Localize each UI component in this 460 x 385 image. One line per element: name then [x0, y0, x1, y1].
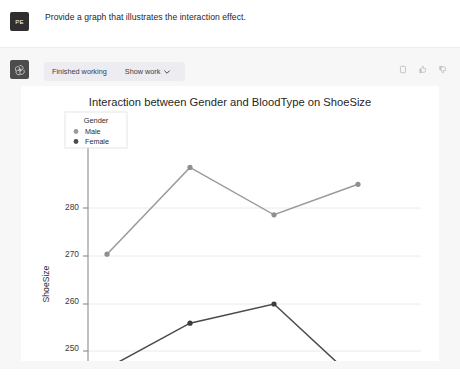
message-actions: [397, 64, 448, 75]
series-female-point-o: [187, 321, 192, 326]
assistant-avatar-wrap: [0, 48, 29, 79]
series-male-point-ab: [355, 182, 360, 187]
assistant-logo-icon: [13, 63, 27, 77]
chevron-down-icon[interactable]: [163, 68, 171, 76]
user-message-row: PE Provide a graph that illustrates the …: [0, 0, 460, 47]
chart-legend: Gender Male Female: [65, 112, 127, 148]
y-axis-label: ShoeSize: [41, 265, 51, 302]
series-male-point-b: [271, 212, 276, 217]
chat-page: PE Provide a graph that illustrates the …: [0, 0, 460, 385]
user-message-text: Provide a graph that illustrates the int…: [45, 12, 246, 24]
legend-marker-male: [74, 129, 79, 134]
thumbs-up-icon[interactable]: [417, 64, 428, 75]
user-avatar-initials: PE: [15, 19, 24, 25]
assistant-message-row: Finished working Show work: [0, 47, 460, 370]
bottom-area: [0, 369, 460, 385]
y-tick-label-280: 280: [65, 202, 79, 212]
interaction-plot-card: Interaction between Gender and BloodType…: [21, 86, 439, 361]
y-tick-label-250: 250: [65, 343, 79, 353]
chart-title: Interaction between Gender and BloodType…: [89, 96, 371, 108]
finished-working-label: Finished working: [52, 67, 107, 76]
thumbs-down-icon[interactable]: [437, 64, 448, 75]
legend-label-female: Female: [85, 137, 109, 146]
user-avatar: PE: [10, 12, 29, 31]
series-male-point-a: [104, 252, 109, 257]
y-tick-label-270: 270: [65, 249, 79, 259]
interaction-plot: Interaction between Gender and BloodType…: [21, 86, 439, 361]
y-tick-label-260: 260: [65, 296, 79, 306]
finished-working-bar[interactable]: Finished working Show work: [44, 62, 185, 81]
show-work-toggle[interactable]: Show work: [125, 67, 172, 76]
series-male-point-o: [187, 165, 192, 170]
assistant-avatar: [10, 60, 29, 79]
copy-icon[interactable]: [397, 64, 408, 75]
show-work-label: Show work: [125, 67, 161, 76]
series-female-point-b: [271, 301, 276, 306]
legend-label-male: Male: [85, 127, 101, 136]
legend-title: Gender: [84, 116, 109, 125]
legend-marker-female: [74, 139, 79, 144]
